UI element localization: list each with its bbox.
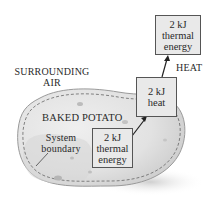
- potato-heat-diagram: SURROUNDING AIR HEAT BAKED POTATO System…: [0, 0, 214, 204]
- box-line: energy: [98, 154, 126, 165]
- potato-spot: [122, 120, 128, 124]
- box-line: energy: [164, 41, 192, 52]
- arrow-line-outer: [162, 59, 167, 77]
- box-line: 2 kJ: [104, 132, 121, 143]
- surroundings-label-line1: SURROUNDING: [12, 66, 92, 77]
- box-line: heat: [148, 97, 166, 108]
- surroundings-label-line2: AIR: [12, 77, 92, 88]
- arrow-head-outer: [164, 55, 170, 61]
- heat-label: HEAT: [176, 62, 202, 74]
- box-line: 2 kJ: [169, 19, 186, 30]
- potato-spot: [77, 102, 83, 106]
- boundary-label: System boundary: [40, 132, 82, 154]
- boundary-label-line2: boundary: [40, 143, 82, 154]
- boundary-label-line1: System: [40, 132, 82, 143]
- system-label: BAKED POTATO: [42, 112, 122, 124]
- potato-spot: [54, 176, 62, 181]
- thermal-energy-inside-box: 2 kJ thermal energy: [92, 128, 133, 168]
- box-line: 2 kJ: [148, 86, 165, 97]
- heat-transfer-box: 2 kJ heat: [136, 77, 177, 117]
- surroundings-label: SURROUNDING AIR: [12, 66, 92, 88]
- thermal-energy-outside-box: 2 kJ thermal energy: [155, 15, 201, 55]
- potato-spot: [70, 157, 74, 160]
- potato-spot: [88, 171, 92, 174]
- potato-spot: [163, 139, 167, 142]
- box-line: thermal: [96, 143, 128, 154]
- box-line: thermal: [162, 30, 194, 41]
